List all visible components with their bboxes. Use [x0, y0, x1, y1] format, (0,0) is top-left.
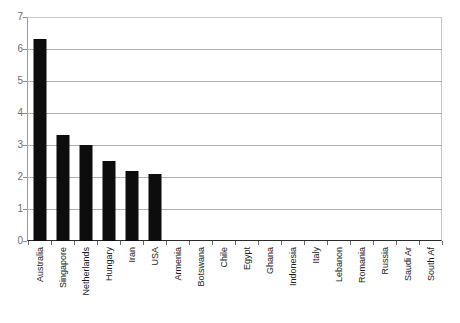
x-axis-tick-mark: [396, 241, 397, 245]
x-axis-tick-mark: [97, 241, 98, 245]
x-axis-label-text: Indonesia: [288, 247, 297, 286]
bar: [33, 39, 46, 241]
y-axis-tick-label: 2: [0, 172, 23, 182]
x-axis-tick-mark: [419, 241, 420, 245]
x-axis-tick-mark: [258, 241, 259, 245]
x-axis-label-text: Armenia: [173, 247, 182, 281]
x-axis-label: USA: [143, 247, 166, 321]
x-axis-label-text: Australia: [35, 247, 44, 282]
x-axis-tick-mark: [281, 241, 282, 245]
x-axis-label: Saudi Ar: [396, 247, 419, 321]
bar: [148, 174, 161, 241]
x-axis-label-text: Saudi Ar: [403, 247, 412, 281]
x-axis-label: Australia: [28, 247, 51, 321]
bar-slot: [235, 17, 258, 241]
x-axis-label: Netherlands: [74, 247, 97, 321]
y-axis-tick-mark: [23, 209, 27, 210]
y-axis-tick-label: 4: [0, 108, 23, 118]
bar: [102, 161, 115, 241]
x-axis-tick-mark: [166, 241, 167, 245]
x-axis-tick-mark: [120, 241, 121, 245]
x-axis-label: Armenia: [166, 247, 189, 321]
x-axis-label: South Af: [419, 247, 442, 321]
y-axis-tick-label: 0: [0, 236, 23, 246]
y-axis-tick-mark: [23, 177, 27, 178]
x-axis-label-text: Chile: [219, 247, 228, 268]
x-axis-label-text: South Af: [426, 247, 435, 281]
x-axis-label-text: Botswana: [196, 247, 205, 287]
bar: [56, 135, 69, 241]
x-axis-tick-mark: [442, 241, 443, 245]
bar-slot: [189, 17, 212, 241]
bar-slot: [373, 17, 396, 241]
x-axis-label: Botswana: [189, 247, 212, 321]
x-axis-label: Indonesia: [281, 247, 304, 321]
y-axis-tick-mark: [23, 17, 27, 18]
x-axis-tick-mark: [212, 241, 213, 245]
y-axis-tick-mark: [23, 145, 27, 146]
bar: [125, 171, 138, 241]
x-axis-label-text: Singapore: [58, 247, 67, 288]
bar-slot: [166, 17, 189, 241]
bar-slot: [419, 17, 442, 241]
x-axis-tick-mark: [304, 241, 305, 245]
x-axis-label-text: USA: [150, 247, 159, 266]
x-axis-tick-mark: [51, 241, 52, 245]
x-axis-label: Italy: [304, 247, 327, 321]
bar-slot: [304, 17, 327, 241]
x-axis-tick-mark: [327, 241, 328, 245]
bar-slot: [281, 17, 304, 241]
x-axis-label-text: Netherlands: [81, 247, 90, 296]
bar-slot: [350, 17, 373, 241]
x-axis-label: Lebanon: [327, 247, 350, 321]
bar-chart-figure: 01234567 AustraliaSingaporeNetherlandsHu…: [0, 0, 460, 323]
x-axis-label-text: Iran: [127, 247, 136, 263]
x-axis-label-text: Hungary: [104, 247, 113, 281]
y-axis-tick-mark: [23, 241, 27, 242]
y-axis-tick-label: 5: [0, 76, 23, 86]
bar-slot: [258, 17, 281, 241]
y-axis-tick-label: 1: [0, 204, 23, 214]
x-axis-label: Ghana: [258, 247, 281, 321]
bar-slot: [143, 17, 166, 241]
x-axis-tick-mark: [373, 241, 374, 245]
y-axis-tick-label: 3: [0, 140, 23, 150]
x-axis-tick-mark: [350, 241, 351, 245]
x-axis-label: Chile: [212, 247, 235, 321]
x-axis-label-text: Italy: [311, 247, 320, 264]
x-axis-label-text: Russia: [380, 247, 389, 275]
bars-series: [28, 17, 442, 241]
x-axis-label: Russia: [373, 247, 396, 321]
bar-slot: [396, 17, 419, 241]
x-axis-label: Hungary: [97, 247, 120, 321]
x-axis-label: Iran: [120, 247, 143, 321]
x-axis-label-text: Egypt: [242, 247, 251, 270]
x-axis-tick-mark: [74, 241, 75, 245]
y-axis-tick-mark: [23, 81, 27, 82]
bar-slot: [97, 17, 120, 241]
x-axis-tick-mark: [189, 241, 190, 245]
bar-slot: [51, 17, 74, 241]
bar-slot: [120, 17, 143, 241]
bar-slot: [327, 17, 350, 241]
bar-slot: [74, 17, 97, 241]
y-axis-tick-mark: [23, 113, 27, 114]
x-axis-label-text: Romania: [357, 247, 366, 283]
y-axis-tick-mark: [23, 49, 27, 50]
y-axis-tick-label: 6: [0, 44, 23, 54]
bar: [79, 145, 92, 241]
bar-slot: [212, 17, 235, 241]
x-axis-label-text: Lebanon: [334, 247, 343, 282]
x-axis-label-text: Ghana: [265, 247, 274, 274]
y-axis-tick-label: 7: [0, 12, 23, 22]
x-axis-label: Singapore: [51, 247, 74, 321]
x-axis-tick-mark: [28, 241, 29, 245]
x-axis-tick-mark: [143, 241, 144, 245]
x-axis-tick-mark: [235, 241, 236, 245]
x-axis-label: Egypt: [235, 247, 258, 321]
x-axis-label: Romania: [350, 247, 373, 321]
bar-slot: [28, 17, 51, 241]
